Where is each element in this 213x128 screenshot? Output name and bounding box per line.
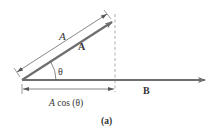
vector-projection-diagram: A A θ B A cos (θ) (a) xyxy=(0,0,213,128)
vector-a-label: A xyxy=(78,41,86,52)
magnitude-dimension-line xyxy=(17,14,107,72)
projection-label-rest: cos (θ) xyxy=(55,98,83,109)
vector-a-arrow xyxy=(22,22,112,80)
angle-label: θ xyxy=(58,66,63,77)
projection-label: A cos (θ) xyxy=(48,98,83,109)
magnitude-tick-start xyxy=(14,68,20,77)
magnitude-label: A xyxy=(58,30,66,42)
angle-arc xyxy=(51,62,57,81)
vector-b-label: B xyxy=(143,85,150,96)
magnitude-tick-end xyxy=(104,10,111,19)
figure-caption: (a) xyxy=(101,116,112,127)
